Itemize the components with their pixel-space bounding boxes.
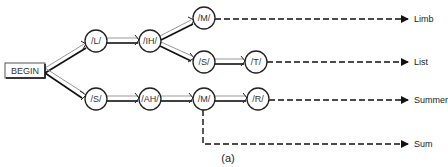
word-label-limb: Limb <box>414 14 434 24</box>
phoneme-node-T: /T/ <box>245 51 267 73</box>
arrow-M2-to-R <box>215 93 247 103</box>
phoneme-label: /S/ <box>90 94 102 104</box>
phoneme-label: /IH/ <box>143 36 158 46</box>
phoneme-node-M-top: /M/ <box>193 7 215 29</box>
word-label-summer: Summer <box>414 95 448 105</box>
phoneme-label: /L/ <box>91 36 102 46</box>
arrow-AH-to-M2 <box>161 93 193 103</box>
phoneme-node-L: /L/ <box>85 30 107 52</box>
phoneme-label: /M/ <box>198 94 211 104</box>
phoneme-label: /R/ <box>252 94 264 104</box>
dashed-arrow-to-sum <box>203 110 408 144</box>
arrow-begin-to-S2 <box>45 68 86 100</box>
phoneme-label: /S/ <box>198 57 210 67</box>
phoneme-node-M-bottom: /M/ <box>193 88 215 110</box>
figure-caption: (a) <box>221 152 234 164</box>
arrow-begin-to-L <box>45 41 86 73</box>
begin-node: BEGIN <box>5 63 45 78</box>
arrow-L-to-IH <box>107 35 139 45</box>
arrow-IH-to-S1 <box>160 42 194 62</box>
phoneme-node-S-bottom: /S/ <box>85 88 107 110</box>
phoneme-node-S-middle: /S/ <box>193 51 215 73</box>
arrow-S1-to-T <box>215 56 245 66</box>
word-label-sum: Sum <box>414 139 433 149</box>
phoneme-label: /AH/ <box>141 94 159 104</box>
arrow-IH-to-M1 <box>160 17 194 40</box>
phoneme-label: /T/ <box>251 57 262 67</box>
phoneme-node-R: /R/ <box>247 88 269 110</box>
arrow-S2-to-AH <box>107 93 139 103</box>
dashed-transitions <box>203 19 408 144</box>
phoneme-tree-diagram: BEGIN /L/ /IH/ /M/ /S/ /T/ /S/ /AH/ /M/ … <box>0 0 448 167</box>
begin-label: BEGIN <box>11 66 39 76</box>
phoneme-label: /M/ <box>198 13 211 23</box>
phoneme-node-AH: /AH/ <box>139 88 161 110</box>
word-label-list: List <box>414 57 429 67</box>
phoneme-node-IH: /IH/ <box>139 30 161 52</box>
